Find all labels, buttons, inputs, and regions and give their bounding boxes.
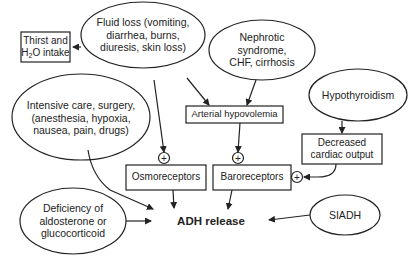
- cardiac-output-line1: Decreased: [318, 137, 366, 149]
- hypothyroidism-node: Hypothyroidism: [309, 82, 407, 108]
- adh-diagram: + + + Thirst and H2O intake Fluid loss (…: [0, 0, 412, 257]
- baroreceptors-node: Baroreceptors: [213, 165, 291, 190]
- arterial-hypovolemia-node: Arterial hypovolemia: [186, 106, 283, 123]
- adh-release-node: ADH release: [156, 213, 266, 229]
- fluid-loss-line1: Fluid loss (vomiting,: [97, 16, 190, 29]
- cardiac-output-line2: cardiac output: [311, 149, 374, 161]
- deficiency-line1: Deficiency of: [43, 202, 103, 215]
- nephrotic-line1: Nephrotic: [240, 31, 285, 44]
- fluid-loss-node: Fluid loss (vomiting, diarrhea, burns, d…: [81, 4, 205, 66]
- plus-sign-baro: +: [235, 153, 241, 164]
- fluid-loss-line3: diuresis, skin loss): [100, 41, 186, 54]
- nephrotic-node: Nephrotic syndrome, CHF, cirrhosis: [209, 22, 315, 78]
- fluid-loss-line2: diarrhea, burns,: [106, 29, 180, 42]
- intensive-care-line1: Intensive care, surgery,: [27, 99, 135, 112]
- plus-sign-osmo: +: [161, 153, 167, 164]
- nephrotic-line2: syndrome,: [237, 44, 286, 57]
- intensive-care-line2: (anesthesia, hypoxia,: [31, 112, 130, 125]
- thirst-line2: H2O intake: [21, 47, 69, 59]
- deficiency-node: Deficiency of aldosterone or glucocortic…: [20, 196, 126, 246]
- thirst-node: Thirst and H2O intake: [21, 32, 70, 62]
- plus-sign-cardiac: +: [294, 172, 300, 183]
- deficiency-line2: aldosterone or: [39, 215, 106, 228]
- osmoreceptors-node: Osmoreceptors: [126, 165, 206, 190]
- thirst-line1: Thirst and: [23, 35, 67, 47]
- nephrotic-line3: CHF, cirrhosis: [229, 56, 294, 69]
- o-intake: O intake: [32, 47, 69, 58]
- intensive-care-node: Intensive care, surgery, (anesthesia, hy…: [12, 96, 150, 140]
- cardiac-output-node: Decreased cardiac output: [302, 134, 382, 164]
- intensive-care-line3: nausea, pain, drugs): [33, 124, 129, 137]
- deficiency-line3: glucocorticoid: [41, 227, 105, 240]
- h-char: H: [21, 47, 28, 58]
- siadh-node: SIADH: [310, 205, 380, 225]
